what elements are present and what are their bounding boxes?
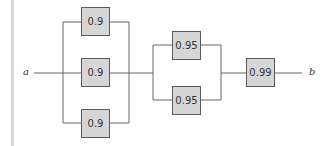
- component-block-stage1-bottom: 0.9: [81, 109, 110, 138]
- terminal-b-label: b: [309, 67, 315, 77]
- component-block-stage1-middle: 0.9: [81, 58, 110, 87]
- terminal-a-label: a: [23, 67, 29, 77]
- component-block-stage2-bottom: 0.95: [172, 86, 201, 115]
- connection-lines: [0, 0, 333, 146]
- component-block-stage3: 0.99: [246, 58, 275, 87]
- component-block-stage2-top: 0.95: [172, 31, 201, 60]
- component-block-stage1-top: 0.9: [81, 7, 110, 36]
